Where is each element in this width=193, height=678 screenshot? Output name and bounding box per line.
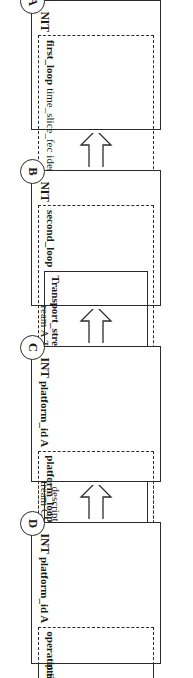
panel-b-loop-label: second_loop bbox=[45, 208, 56, 268]
panel-a-outside-labels: NIT bbox=[39, 10, 155, 35]
panel-c[interactable]: C INT platform_id A platform_loop time_s… bbox=[32, 346, 162, 482]
diagram-flow: A NIT first_loop time_slice_fec identifi… bbox=[0, 0, 193, 678]
panel-a-table-name: NIT bbox=[39, 10, 51, 33]
panel-d-outside-labels: INT platform_id A bbox=[39, 532, 155, 627]
panel-c-loop-label: platform_loop bbox=[45, 454, 56, 524]
panel-d-loop-label: operational_loop bbox=[45, 630, 56, 678]
panel-b-table-name: NIT bbox=[39, 180, 51, 203]
panel-c-platform-id: platform_id A bbox=[39, 379, 50, 448]
diagram-canvas: A NIT first_loop time_slice_fec identifi… bbox=[0, 0, 193, 678]
panel-a-loop-label: first_loop bbox=[45, 38, 56, 86]
panel-b[interactable]: B NIT second_loop Transport_stream A tim… bbox=[32, 170, 162, 306]
panel-c-table-name: INT bbox=[39, 356, 51, 379]
panel-d-dashed-block: operational_loop time_slice_fec identifi… bbox=[39, 627, 155, 678]
panel-d[interactable]: D INT platform_id A operational_loop tim… bbox=[32, 522, 162, 664]
panel-c-outside-labels: INT platform_id A bbox=[39, 356, 155, 451]
panel-d-platform-id: platform_id A bbox=[39, 555, 50, 624]
panel-a-field-time-slice-fec: time_slice_fec bbox=[45, 87, 56, 154]
panel-a[interactable]: A NIT first_loop time_slice_fec identifi… bbox=[32, 0, 162, 130]
panel-d-table-name: INT bbox=[39, 532, 51, 555]
panel-b-outside-labels: NIT bbox=[39, 180, 155, 205]
